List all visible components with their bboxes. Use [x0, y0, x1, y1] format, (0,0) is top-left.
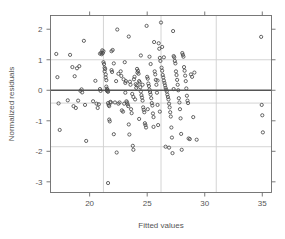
y-tick-label: -3	[35, 178, 43, 187]
y-tick-label: -1	[35, 117, 43, 126]
residual-scatter-chart: 20253035210-1-2-3Fitted valuesNormalized…	[0, 0, 285, 239]
x-axis-title: Fitted values	[138, 221, 183, 230]
x-tick-label: 35	[258, 199, 267, 208]
y-tick-label: -2	[35, 147, 43, 156]
x-tick-label: 20	[85, 199, 94, 208]
scatter-plot-figure: 20253035210-1-2-3Fitted valuesNormalized…	[0, 0, 285, 239]
y-tick-label: 1	[38, 56, 43, 65]
y-axis-title: Normalized residuals	[7, 67, 16, 142]
x-tick-label: 25	[143, 199, 152, 208]
y-tick-label: 0	[38, 86, 43, 95]
y-tick-label: 2	[38, 25, 43, 34]
x-tick-label: 30	[200, 199, 209, 208]
